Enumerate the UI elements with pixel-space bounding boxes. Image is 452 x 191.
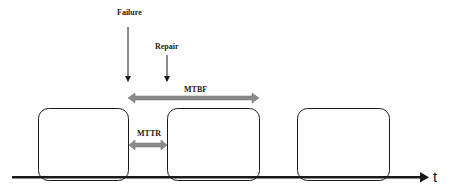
mttr-label: MTTR [137, 129, 161, 138]
mtbf-mttr-diagram: Failure Repair MTBF MTTR t [0, 0, 452, 191]
mttr-double-arrow-icon [129, 140, 167, 150]
time-axis-arrowhead-icon [420, 172, 429, 182]
operating-block-2 [168, 109, 260, 181]
failure-label: Failure [117, 8, 142, 17]
time-axis-label: t [433, 168, 438, 185]
diagram-svg: Failure Repair MTBF MTTR t [0, 0, 452, 191]
operating-block-1 [39, 109, 129, 181]
mtbf-label: MTBF [184, 85, 207, 94]
time-axis-line [12, 176, 422, 179]
repair-label: Repair [155, 42, 179, 51]
mtbf-double-arrow-icon [128, 93, 259, 103]
operating-block-3 [298, 109, 390, 181]
